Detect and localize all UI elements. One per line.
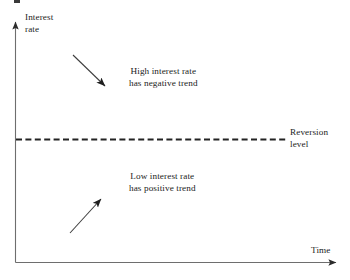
x-axis-label: Time — [311, 245, 330, 257]
negative-trend-arrow-icon — [73, 55, 105, 86]
high-interest-rate-annotation: High interest rate has negative trend — [129, 66, 198, 89]
reversion-level-label: Reversion level — [290, 127, 328, 150]
low-interest-rate-annotation: Low interest rate has positive trend — [129, 171, 196, 194]
y-axis-label: Interest rate — [25, 12, 53, 35]
mean-reversion-diagram: Interest rate Time Reversion level High … — [0, 0, 350, 280]
positive-trend-arrow-icon — [70, 199, 101, 233]
scan-artifact-mark — [14, 0, 20, 3]
